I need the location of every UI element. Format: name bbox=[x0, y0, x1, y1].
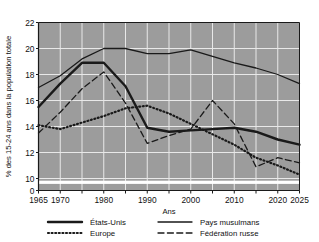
x-tick-label: 1965 bbox=[29, 195, 48, 205]
x-tick-label: 2020 bbox=[268, 195, 287, 205]
x-tick-label: 1980 bbox=[94, 195, 113, 205]
legend-label-3: Europe bbox=[90, 229, 115, 238]
y-tick-label: 12 bbox=[25, 148, 35, 158]
y-tick-label: 14 bbox=[25, 122, 35, 132]
axis-break-band bbox=[39, 181, 300, 184]
chart-figure: 222018161412100% des 15-24 ans dans la p… bbox=[0, 0, 319, 242]
line-chart: 222018161412100% des 15-24 ans dans la p… bbox=[0, 0, 319, 242]
x-axis-title: Ans bbox=[162, 207, 175, 216]
y-tick-label: 20 bbox=[25, 44, 35, 54]
y-tick-label: 10 bbox=[25, 174, 35, 184]
x-axis: 19651970198019902000201020202025 bbox=[29, 191, 309, 205]
clipped-top-caption bbox=[4, 0, 304, 4]
y-tick-label: 22 bbox=[25, 18, 35, 28]
x-tick-label: 2025 bbox=[290, 195, 309, 205]
legend-label-2: Pays musulmans bbox=[200, 218, 259, 227]
y-tick-label: 16 bbox=[25, 96, 35, 106]
x-tick-label: 2000 bbox=[181, 195, 200, 205]
x-tick-label: 1970 bbox=[51, 195, 70, 205]
x-tick-label: 1990 bbox=[138, 195, 157, 205]
y-axis-title: % des 15-24 ans dans la population total… bbox=[4, 36, 13, 177]
y-axis: 222018161412100 bbox=[25, 18, 38, 196]
legend: États-UnisPays musulmansEuropeFédération… bbox=[48, 218, 259, 238]
legend-label-4: Fédération russe bbox=[200, 229, 259, 238]
y-tick-label: 18 bbox=[25, 70, 35, 80]
legend-label-1: États-Unis bbox=[90, 218, 126, 227]
x-tick-label: 2010 bbox=[225, 195, 244, 205]
